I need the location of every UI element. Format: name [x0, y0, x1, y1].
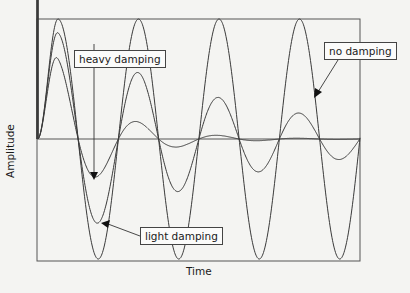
y-axis-label: Amplitude: [4, 124, 16, 178]
x-axis-label: Time: [186, 265, 212, 277]
no-damping-label: no damping: [324, 42, 397, 60]
light-arrow-line: [108, 224, 140, 236]
light-arrow-head: [101, 220, 110, 228]
none-arrow-head: [314, 88, 322, 98]
none-arrow-line: [318, 60, 338, 92]
heavy-damping-curve: [37, 0, 360, 177]
no-damping-curve: [37, 0, 360, 259]
heavy-arrow-head: [90, 172, 98, 180]
heavy-damping-label: heavy damping: [74, 50, 166, 68]
light-damping-label: light damping: [140, 227, 223, 245]
light-damping-curve: [37, 0, 360, 223]
